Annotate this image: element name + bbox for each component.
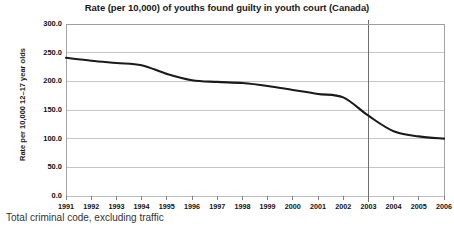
x-tick-label: 1994 [134, 202, 150, 211]
x-tick-label: 1997 [209, 202, 225, 211]
x-tick-label: 1995 [159, 202, 175, 211]
x-tick-label: 2004 [386, 202, 402, 211]
x-tick-label: 1991 [58, 202, 74, 211]
x-tick-label: 2006 [436, 202, 452, 211]
x-tick-label: 2003 [360, 202, 376, 211]
x-tick-label: 1999 [260, 202, 276, 211]
x-tick-label: 1996 [184, 202, 200, 211]
x-tick-label: 2005 [411, 202, 427, 211]
x-tick-label: 2001 [310, 202, 326, 211]
x-tick-label: 1998 [234, 202, 250, 211]
x-tick-label: 2000 [285, 202, 301, 211]
x-tick-label: 2002 [335, 202, 351, 211]
chart-footnote: Total criminal code, excluding traffic [6, 212, 164, 223]
x-axis-tick-labels: 1991199219931994199519961997199819992000… [0, 0, 454, 230]
x-tick-label: 1993 [108, 202, 124, 211]
chart-container: Rate (per 10,000) of youths found guilty… [0, 0, 454, 230]
x-tick-label: 1992 [83, 202, 99, 211]
